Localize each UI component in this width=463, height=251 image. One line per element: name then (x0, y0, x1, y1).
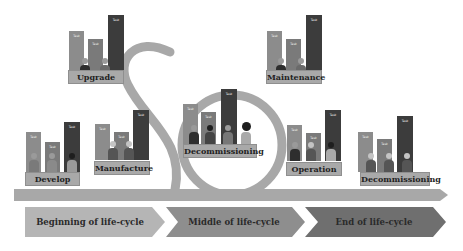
lifecycle-diagram: Task Task Task Upgrade Task Task Task Ma… (0, 0, 463, 251)
phase-label-middle: Middle of life-cycle (170, 206, 298, 237)
phase-label-beginning: Beginning of life-cycle (25, 206, 155, 237)
phase-label-end: End of life-cycle (310, 206, 438, 237)
